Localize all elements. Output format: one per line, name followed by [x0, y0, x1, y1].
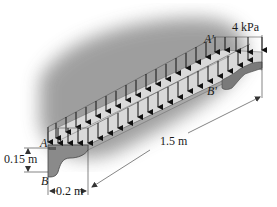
beam-end-highlight	[48, 147, 56, 150]
length-dimension-label: 1.5 m	[160, 135, 187, 147]
point-a-prime-label: A'	[204, 33, 214, 45]
point-b-label: B	[41, 175, 48, 187]
height-dimension-label: 0.15 m	[4, 153, 37, 165]
load-magnitude-label: 4 kPa	[232, 21, 259, 33]
point-a-label: A	[40, 137, 47, 149]
width-dimension-label: 0.2 m	[56, 185, 83, 197]
point-b-prime-label: B'	[207, 85, 217, 97]
